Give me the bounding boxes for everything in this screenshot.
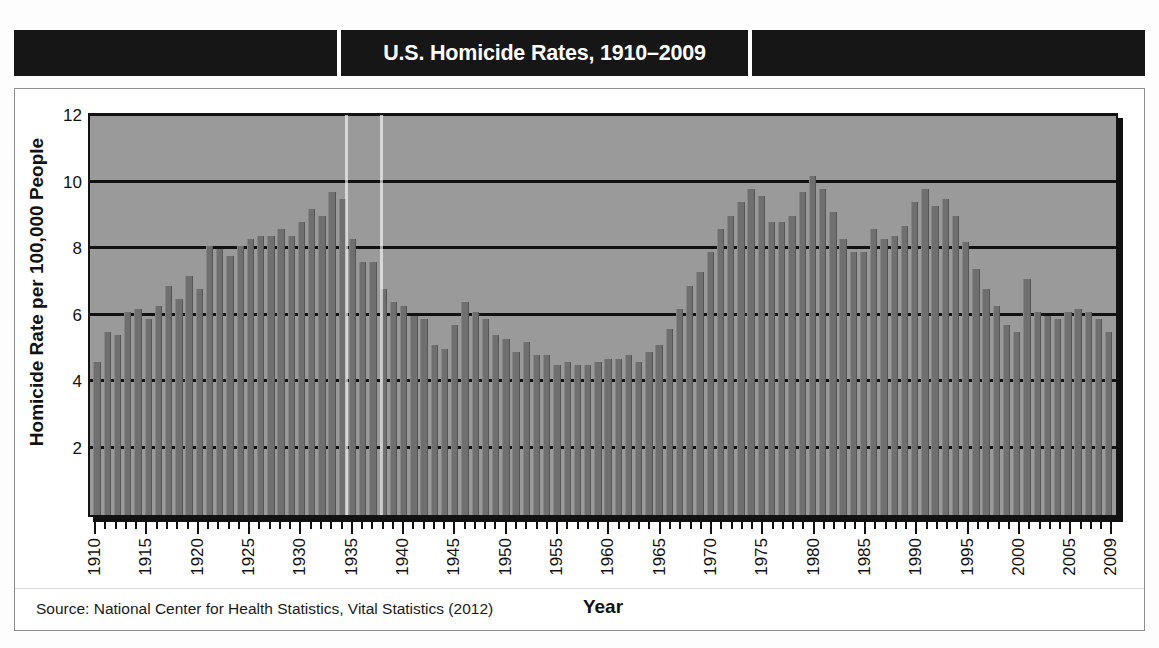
bar[interactable] (420, 319, 427, 515)
bar[interactable] (390, 302, 397, 515)
bar[interactable] (185, 276, 192, 515)
bar[interactable] (737, 202, 744, 515)
bar[interactable] (655, 345, 662, 515)
bar[interactable] (901, 226, 908, 515)
bar[interactable] (747, 189, 754, 515)
bar[interactable] (410, 316, 417, 516)
bar[interactable] (237, 246, 244, 515)
bar[interactable] (216, 249, 223, 515)
bar[interactable] (860, 252, 867, 515)
bar[interactable] (1003, 325, 1010, 515)
bar[interactable] (1054, 319, 1061, 515)
bar[interactable] (206, 246, 213, 515)
bar[interactable] (666, 329, 673, 515)
bar[interactable] (696, 272, 703, 515)
bar[interactable] (349, 239, 356, 515)
bar[interactable] (533, 355, 540, 515)
bar[interactable] (104, 332, 111, 515)
bar[interactable] (339, 199, 346, 515)
bar[interactable] (635, 362, 642, 515)
bar[interactable] (686, 286, 693, 515)
bar[interactable] (451, 325, 458, 515)
bar[interactable] (175, 299, 182, 515)
bar[interactable] (717, 229, 724, 515)
bar[interactable] (318, 216, 325, 515)
bar[interactable] (288, 236, 295, 515)
bar[interactable] (226, 256, 233, 515)
bar[interactable] (778, 222, 785, 515)
bar[interactable] (850, 252, 857, 515)
bar[interactable] (1023, 279, 1030, 515)
bar[interactable] (962, 242, 969, 515)
bar[interactable] (359, 262, 366, 515)
bar[interactable] (502, 339, 509, 515)
bar[interactable] (931, 206, 938, 515)
bar[interactable] (676, 309, 683, 515)
bar[interactable] (145, 319, 152, 515)
bar[interactable] (472, 312, 479, 515)
bar[interactable] (574, 365, 581, 515)
bar[interactable] (441, 349, 448, 515)
bar[interactable] (788, 216, 795, 515)
bar[interactable] (839, 239, 846, 515)
bar[interactable] (982, 289, 989, 515)
bar[interactable] (1013, 332, 1020, 515)
bar[interactable] (165, 286, 172, 515)
bar[interactable] (155, 306, 162, 515)
bar[interactable] (727, 216, 734, 515)
bar[interactable] (594, 362, 601, 515)
bar[interactable] (829, 212, 836, 515)
bar[interactable] (369, 262, 376, 515)
bar[interactable] (523, 342, 530, 515)
bar[interactable] (298, 222, 305, 515)
bar[interactable] (799, 192, 806, 515)
bar[interactable] (1044, 316, 1051, 516)
bar[interactable] (1074, 309, 1081, 515)
bar[interactable] (942, 199, 949, 515)
bar[interactable] (114, 335, 121, 515)
bar[interactable] (1034, 312, 1041, 515)
bar[interactable] (431, 345, 438, 515)
bar[interactable] (482, 319, 489, 515)
bar[interactable] (512, 352, 519, 515)
bar[interactable] (972, 269, 979, 515)
bar[interactable] (809, 176, 816, 515)
bar[interactable] (564, 362, 571, 515)
bar[interactable] (645, 352, 652, 515)
bar[interactable] (952, 216, 959, 515)
bar[interactable] (492, 335, 499, 515)
bar[interactable] (328, 192, 335, 515)
bar[interactable] (1095, 319, 1102, 515)
bar[interactable] (758, 196, 765, 515)
bar[interactable] (604, 359, 611, 515)
bar[interactable] (93, 362, 100, 515)
bar[interactable] (1085, 312, 1092, 515)
bar[interactable] (819, 189, 826, 515)
bar[interactable] (880, 239, 887, 515)
bar[interactable] (134, 309, 141, 515)
bar[interactable] (257, 236, 264, 515)
bar[interactable] (1105, 332, 1112, 515)
bar[interactable] (993, 306, 1000, 515)
bar[interactable] (247, 239, 254, 515)
bar[interactable] (870, 229, 877, 515)
bar[interactable] (461, 302, 468, 515)
bar[interactable] (277, 229, 284, 515)
bar[interactable] (400, 306, 407, 515)
bar[interactable] (584, 365, 591, 515)
bar[interactable] (911, 202, 918, 515)
bar[interactable] (267, 236, 274, 515)
bar[interactable] (308, 209, 315, 515)
bar[interactable] (1064, 312, 1071, 515)
bar[interactable] (921, 189, 928, 515)
bar[interactable] (543, 355, 550, 515)
bar[interactable] (124, 312, 131, 515)
bar[interactable] (196, 289, 203, 515)
bar[interactable] (615, 359, 622, 515)
bar[interactable] (553, 365, 560, 515)
bar[interactable] (707, 252, 714, 515)
bar[interactable] (380, 289, 387, 515)
bar[interactable] (625, 355, 632, 515)
bar[interactable] (768, 222, 775, 515)
bar[interactable] (891, 236, 898, 515)
